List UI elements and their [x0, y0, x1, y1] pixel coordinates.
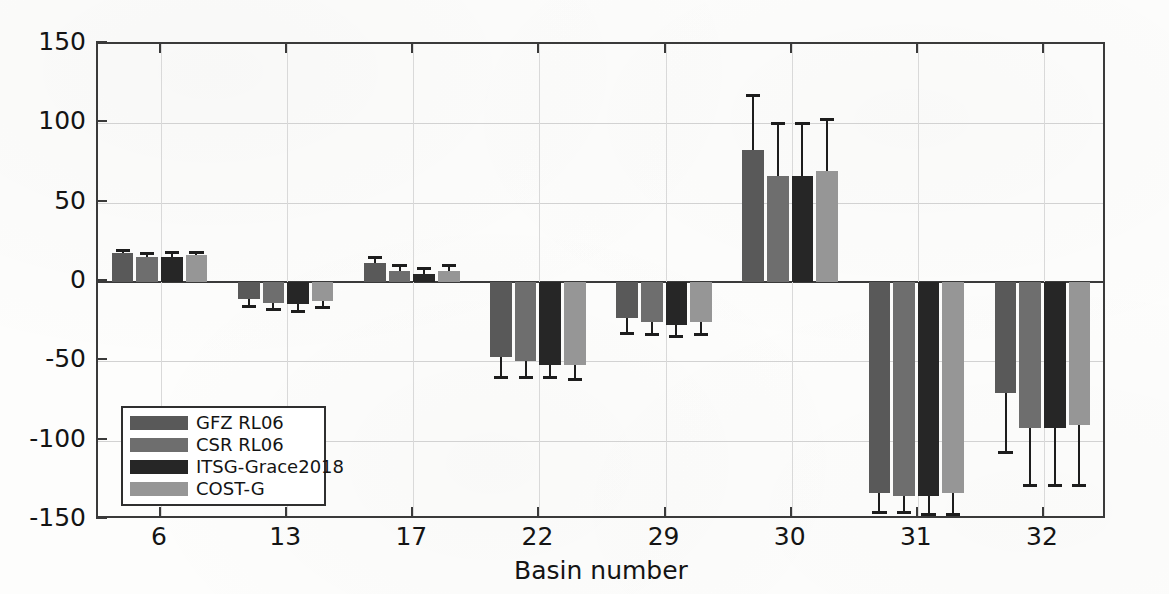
error-bar-cap	[669, 335, 683, 338]
error-bar-stem	[574, 365, 576, 379]
bar	[287, 282, 309, 304]
bar	[389, 271, 411, 282]
y-tick-mark	[96, 438, 107, 440]
error-bar-stem	[1005, 393, 1007, 452]
x-gridline	[666, 44, 667, 516]
legend-item: ITSG-Grace2018	[123, 456, 324, 478]
y-tick-label: -50	[16, 346, 86, 371]
bar	[161, 257, 183, 282]
error-bar-cap	[1023, 484, 1037, 487]
x-tick-mark	[537, 507, 539, 518]
error-bar-cap	[116, 249, 130, 252]
error-bar-stem	[801, 123, 803, 175]
legend-item-label: ITSG-Grace2018	[196, 458, 344, 476]
x-tick-label: 30	[750, 522, 830, 551]
legend-item: GFZ RL06	[123, 412, 324, 434]
error-bar-cap	[189, 251, 203, 254]
x-tick-mark	[285, 42, 287, 53]
x-tick-label: 32	[1002, 522, 1082, 551]
bar	[942, 282, 964, 493]
bar	[112, 253, 134, 282]
y-tick-mark	[96, 41, 107, 43]
bar	[238, 282, 260, 299]
bar	[742, 150, 764, 282]
bar	[641, 282, 663, 322]
bar	[186, 255, 208, 282]
legend-item-label: COST-G	[196, 480, 265, 498]
x-tick-mark	[916, 507, 918, 518]
x-tick-label: 6	[119, 522, 199, 551]
error-bar-stem	[525, 361, 527, 377]
x-tick-mark	[159, 42, 161, 53]
x-tick-label: 31	[876, 522, 956, 551]
error-bar-cap	[140, 252, 154, 255]
y-tick-label: 150	[16, 29, 86, 54]
error-bar-stem	[952, 493, 954, 514]
error-bar-stem	[928, 496, 930, 513]
error-bar-cap	[998, 451, 1012, 454]
x-tick-mark	[285, 507, 287, 518]
error-bar-stem	[1078, 425, 1080, 485]
error-bar-cap	[746, 94, 760, 97]
y-gridline	[98, 203, 1103, 204]
error-bar-cap	[519, 376, 533, 379]
error-bar-cap	[368, 256, 382, 259]
error-bar-cap	[1048, 484, 1062, 487]
bar	[515, 282, 537, 361]
bar	[413, 274, 435, 282]
x-tick-mark	[537, 42, 539, 53]
error-bar-cap	[645, 333, 659, 336]
bar	[1044, 282, 1066, 428]
x-gridline	[539, 44, 540, 516]
error-bar-stem	[626, 318, 628, 332]
bar	[1069, 282, 1091, 425]
bar	[564, 282, 586, 365]
x-tick-mark	[1042, 507, 1044, 518]
x-tick-mark	[664, 42, 666, 53]
error-bar-cap	[417, 267, 431, 270]
x-tick-label: 22	[497, 522, 577, 551]
error-bar-cap	[694, 333, 708, 336]
error-bar-cap	[315, 306, 329, 309]
x-tick-label: 13	[245, 522, 325, 551]
error-bar-stem	[878, 493, 880, 512]
bar	[816, 171, 838, 282]
error-bar-cap	[820, 118, 834, 121]
error-bar-stem	[777, 123, 779, 175]
y-tick-mark	[96, 358, 107, 360]
y-tick-label: 100	[16, 108, 86, 133]
x-tick-label: 17	[371, 522, 451, 551]
x-axis-title: Basin number	[96, 556, 1106, 585]
bar	[918, 282, 940, 496]
bar	[136, 257, 158, 282]
error-bar-cap	[921, 513, 935, 516]
error-bar-cap	[543, 376, 557, 379]
x-tick-mark	[1042, 42, 1044, 53]
y-tick-label: -150	[16, 505, 86, 530]
error-bar-cap	[266, 308, 280, 311]
bar	[666, 282, 688, 325]
error-bar-cap	[795, 122, 809, 125]
y-tick-mark	[96, 200, 107, 202]
y-tick-label: 0	[16, 267, 86, 292]
y-tick-mark	[96, 517, 107, 519]
error-bar-stem	[826, 119, 828, 171]
error-bar-cap	[392, 264, 406, 267]
x-tick-mark	[916, 42, 918, 53]
x-tick-mark	[790, 42, 792, 53]
bar	[438, 271, 460, 282]
y-tick-mark	[96, 279, 107, 281]
legend-item: COST-G	[123, 478, 324, 500]
x-gridline	[1044, 44, 1045, 516]
error-bar-cap	[494, 376, 508, 379]
bar	[263, 282, 285, 303]
y-tick-label: -100	[16, 426, 86, 451]
error-bar-stem	[1054, 428, 1056, 485]
error-bar-stem	[1029, 428, 1031, 485]
error-bar-cap	[242, 305, 256, 308]
error-bar-cap	[165, 251, 179, 254]
error-bar-cap	[771, 122, 785, 125]
bar	[539, 282, 561, 365]
bar	[364, 263, 386, 282]
y-gridline	[98, 123, 1103, 124]
